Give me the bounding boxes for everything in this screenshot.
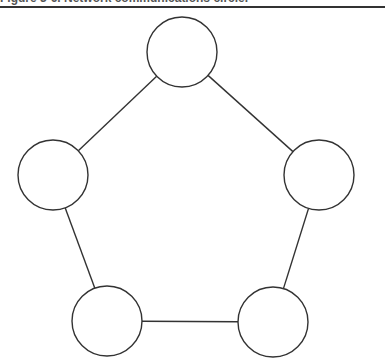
node-bottom-right (238, 287, 308, 357)
edges-group (65, 75, 308, 321)
node-bottom-left (72, 286, 142, 356)
node-right (284, 140, 354, 210)
edge-top-right (208, 75, 293, 151)
nodes-group (18, 17, 354, 357)
node-top (147, 17, 217, 87)
edge-left-top (78, 76, 156, 151)
edge-bottom-left-left (65, 208, 95, 288)
edge-bottom-right-bottom-left (142, 321, 238, 322)
network-circle-diagram (0, 0, 385, 363)
edge-right-bottom-right (283, 208, 308, 288)
node-left (18, 140, 88, 210)
